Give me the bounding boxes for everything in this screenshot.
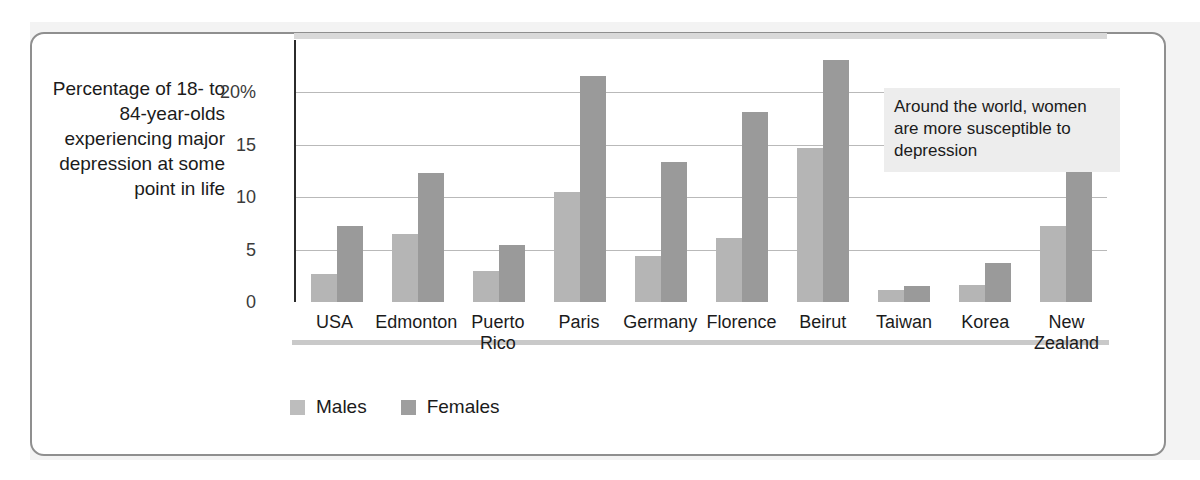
bar-males [311,274,337,302]
y-tick-label: 0 [246,292,256,313]
bar-females [337,226,363,303]
x-tick-label: Florence [701,312,782,354]
bar-females [985,263,1011,302]
plot-top-band [294,33,1107,39]
x-tick-label: Paris [539,312,620,354]
legend-label: Females [427,396,500,418]
x-tick-label: Taiwan [863,312,944,354]
bar-females [904,286,930,302]
bar-females [661,162,687,302]
x-tick-label: USA [294,312,375,354]
legend-item[interactable]: Males [290,396,367,418]
bar-males [473,271,499,302]
y-tick-label: 10 [236,187,256,208]
bar-females [580,76,606,302]
x-axis-tick-labels: USAEdmontonPuerto RicoParisGermanyFloren… [294,312,1107,354]
chart-annotation: Around the world, women are more suscept… [884,88,1120,172]
bar-group [620,40,701,302]
page-band-top [0,0,1200,22]
bar-males [878,290,904,302]
bar-males [797,148,823,302]
y-tick-label: 5 [246,239,256,260]
y-tick-label: 15 [236,134,256,155]
bar-group [783,40,864,302]
legend-swatch-icon [401,400,416,415]
bar-group [701,40,782,302]
legend-label: Males [316,396,367,418]
x-tick-label: Edmonton [375,312,457,354]
x-tick-label: Puerto Rico [457,312,538,354]
x-tick-label: Korea [945,312,1026,354]
bar-group [296,40,377,302]
bar-males [554,192,580,302]
page-band-right [0,0,30,480]
bar-males [716,238,742,302]
bar-females [499,245,525,302]
bar-females [823,60,849,302]
bar-group [377,40,458,302]
bar-females [418,173,444,302]
page-band-bottom [0,460,1200,480]
bar-males [959,285,985,302]
y-axis-caption: Percentage of 18- to 84-year-olds experi… [30,76,225,201]
bar-group [458,40,539,302]
legend-item[interactable]: Females [401,396,500,418]
legend-swatch-icon [290,400,305,415]
bar-males [1040,226,1066,303]
y-tick-label: 20% [220,82,256,103]
chart-plot: 05101520% USAEdmontonPuerto RicoParisGer… [262,40,1107,340]
x-tick-label: New Zealand [1026,312,1107,354]
chart-legend: MalesFemales [290,396,500,418]
x-tick-label: Germany [620,312,701,354]
bar-group [539,40,620,302]
figure-root: Percentage of 18- to 84-year-olds experi… [0,0,1200,480]
y-axis-tick-labels: 05101520% [204,40,256,302]
bar-males [392,234,418,302]
x-tick-label: Beirut [782,312,863,354]
bar-males [635,256,661,302]
bar-females [742,112,768,302]
